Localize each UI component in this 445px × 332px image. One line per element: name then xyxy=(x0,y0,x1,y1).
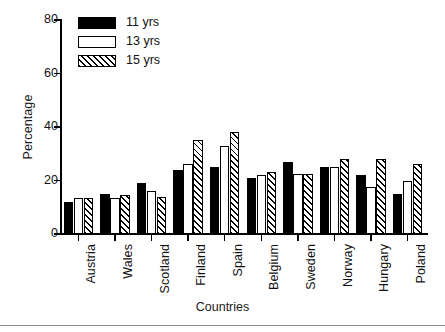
bar-sweden-13-yrs xyxy=(293,174,302,234)
x-axis-title: Countries xyxy=(0,300,445,314)
bar-norway-15-yrs xyxy=(340,159,349,234)
bar-finland-15-yrs xyxy=(193,140,202,234)
bar-group xyxy=(283,20,312,234)
bar-group xyxy=(247,20,276,234)
x-tick-label-belgium: Belgium xyxy=(267,244,281,290)
x-tick-label-wales: Wales xyxy=(121,244,135,279)
x-tick-label-sweden: Sweden xyxy=(304,244,318,290)
bar-belgium-13-yrs xyxy=(257,175,266,234)
bar-spain-11-yrs xyxy=(210,167,219,234)
x-tick-mark xyxy=(151,234,153,241)
x-tick-label-spain: Spain xyxy=(231,244,245,276)
legend-label: 11 yrs xyxy=(126,16,159,29)
x-tick-label-scotland: Scotland xyxy=(158,244,172,293)
bar-hungary-13-yrs xyxy=(366,187,375,234)
bar-group xyxy=(320,20,349,234)
bar-spain-15-yrs xyxy=(230,132,239,234)
y-tick-mark xyxy=(54,180,61,182)
legend-item: 15 yrs xyxy=(78,52,160,69)
bar-austria-15-yrs xyxy=(84,198,93,234)
bar-norway-11-yrs xyxy=(320,167,329,234)
chart-legend: 11 yrs13 yrs15 yrs xyxy=(78,14,160,71)
x-tick-mark xyxy=(78,234,80,241)
x-tick-label-austria: Austria xyxy=(84,244,98,284)
legend-item: 13 yrs xyxy=(78,33,160,50)
bar-group xyxy=(356,20,385,234)
y-tick-mark xyxy=(54,233,61,235)
bar-group xyxy=(210,20,239,234)
x-tick-mark xyxy=(407,234,409,241)
bar-scotland-13-yrs xyxy=(147,191,156,234)
x-tick-mark xyxy=(187,234,189,241)
y-tick-mark xyxy=(54,126,61,128)
x-tick-mark xyxy=(261,234,263,241)
x-tick-label-poland: Poland xyxy=(414,244,428,284)
bar-sweden-11-yrs xyxy=(283,162,292,234)
bar-austria-11-yrs xyxy=(64,202,73,234)
bar-hungary-15-yrs xyxy=(376,159,385,234)
bar-spain-13-yrs xyxy=(220,146,229,234)
bottom-divider xyxy=(0,325,445,326)
bar-finland-13-yrs xyxy=(183,164,192,234)
legend-label: 15 yrs xyxy=(126,54,160,67)
bar-hungary-11-yrs xyxy=(356,175,365,234)
bar-norway-13-yrs xyxy=(330,167,339,234)
bar-poland-13-yrs xyxy=(403,181,412,235)
legend-swatch-hatch xyxy=(78,55,116,67)
bar-poland-15-yrs xyxy=(413,164,422,234)
y-axis-ticks: 020406080 xyxy=(30,0,58,246)
bar-wales-13-yrs xyxy=(110,198,119,234)
x-tick-label-finland: Finland xyxy=(194,244,208,286)
x-tick-mark xyxy=(370,234,372,241)
bar-group xyxy=(393,20,422,234)
x-tick-mark xyxy=(224,234,226,241)
legend-swatch-solid xyxy=(78,17,116,29)
y-tick-mark xyxy=(54,19,61,21)
bar-wales-15-yrs xyxy=(120,195,129,234)
x-tick-mark xyxy=(114,234,116,241)
x-tick-mark xyxy=(334,234,336,241)
bar-belgium-11-yrs xyxy=(247,178,256,234)
bar-sweden-15-yrs xyxy=(303,174,312,234)
x-tick-label-norway: Norway xyxy=(341,244,355,287)
x-tick-mark xyxy=(297,234,299,241)
bar-poland-11-yrs xyxy=(393,194,402,234)
bar-finland-11-yrs xyxy=(173,170,182,234)
bar-wales-11-yrs xyxy=(100,194,109,234)
bar-belgium-15-yrs xyxy=(267,172,276,234)
legend-swatch-hollow xyxy=(78,36,116,48)
y-tick-mark xyxy=(54,73,61,75)
bar-scotland-15-yrs xyxy=(157,197,166,234)
bar-scotland-11-yrs xyxy=(137,183,146,234)
legend-label: 13 yrs xyxy=(126,35,160,48)
bar-austria-13-yrs xyxy=(74,198,83,234)
bar-group xyxy=(173,20,202,234)
legend-item: 11 yrs xyxy=(78,14,160,31)
x-tick-label-hungary: Hungary xyxy=(377,244,391,292)
bar-chart-figure: Percentage 020406080 AustriaWalesScotlan… xyxy=(0,0,445,332)
